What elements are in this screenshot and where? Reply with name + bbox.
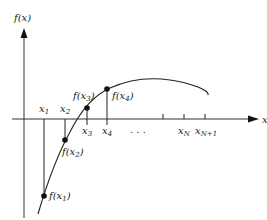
y-axis: f(x) xyxy=(13,12,31,218)
tick-label-xN1: xN+1 xyxy=(195,125,217,138)
function-diagram: f(x) x f(x1) f(x2) f(x3) f(x4) x1 x xyxy=(0,0,267,220)
label-f-x2: f(x2) xyxy=(61,146,84,159)
point-f-x3 xyxy=(84,105,90,111)
drop-lines xyxy=(44,89,205,196)
ellipsis: . . . xyxy=(130,124,146,135)
label-f-x4: f(x4) xyxy=(111,90,134,103)
x-axis-arrow-icon xyxy=(248,116,259,123)
tick-label-x1: x1 xyxy=(39,103,49,116)
label-f-x1: f(x1) xyxy=(48,190,71,203)
point-f-x1 xyxy=(41,193,47,199)
point-f-x4 xyxy=(104,86,110,92)
tick-label-x2: x2 xyxy=(60,103,71,116)
point-f-x2 xyxy=(62,137,68,143)
tick-label-x3: x3 xyxy=(82,125,93,138)
y-axis-arrow-icon xyxy=(21,28,28,38)
y-axis-label: f(x) xyxy=(13,12,31,23)
x-axis-label: x xyxy=(262,114,267,125)
tick-label-xN: xN xyxy=(178,125,191,138)
tick-label-x4: x4 xyxy=(102,125,112,138)
